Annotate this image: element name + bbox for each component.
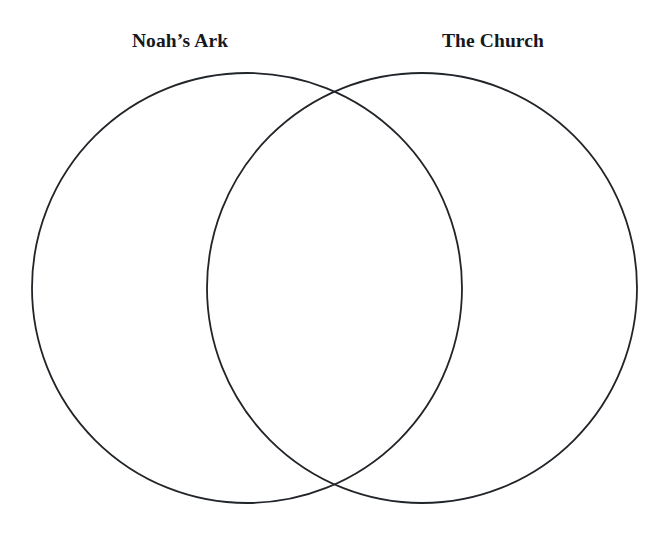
venn-diagram-figure: Noah’s Ark The Church [0,0,668,538]
region-right-only[interactable] [470,180,610,400]
region-intersection[interactable] [250,180,420,400]
set-label-left: Noah’s Ark [132,31,228,51]
region-left-only[interactable] [60,180,200,400]
set-label-right: The Church [442,31,544,51]
